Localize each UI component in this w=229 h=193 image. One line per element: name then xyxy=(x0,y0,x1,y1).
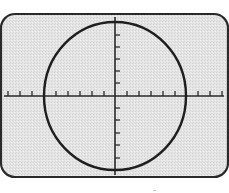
oscilloscope-display xyxy=(0,0,229,193)
print-artifact xyxy=(153,190,156,191)
